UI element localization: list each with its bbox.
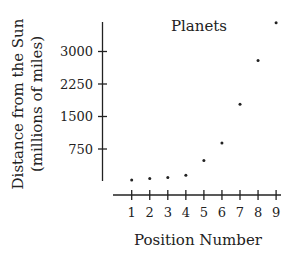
- y-ticks: 750150022503000: [60, 44, 107, 157]
- x-axis-label: Position Number: [134, 231, 263, 249]
- data-point: [275, 21, 278, 24]
- y-axis-label-line1: Distance from the Sun: [9, 18, 27, 189]
- x-tick-label: 7: [236, 205, 244, 220]
- y-tick-label: 750: [68, 142, 93, 157]
- data-point: [166, 176, 169, 179]
- data-point: [202, 159, 205, 162]
- data-point: [239, 103, 242, 106]
- chart-title: Planets: [171, 17, 227, 35]
- x-tick-label: 3: [164, 205, 172, 220]
- scatter-chart: Planets Distance from the Sun (millions …: [0, 0, 295, 254]
- x-tick-label: 5: [200, 205, 208, 220]
- data-point: [220, 142, 223, 145]
- y-axis-label: Distance from the Sun (millions of miles…: [9, 18, 46, 189]
- data-point: [148, 177, 151, 180]
- x-tick-label: 8: [254, 205, 262, 220]
- data-point: [257, 59, 260, 62]
- y-axis-label-line2: (millions of miles): [28, 36, 46, 172]
- data-points: [130, 21, 277, 181]
- y-tick-label: 1500: [60, 109, 93, 124]
- x-tick-label: 9: [272, 205, 280, 220]
- x-tick-label: 2: [146, 205, 154, 220]
- data-point: [184, 174, 187, 177]
- x-tick-label: 4: [182, 205, 190, 220]
- y-tick-label: 3000: [60, 44, 93, 59]
- x-tick-label: 6: [218, 205, 226, 220]
- data-point: [130, 178, 133, 181]
- y-tick-label: 2250: [60, 77, 93, 92]
- x-tick-label: 1: [128, 205, 136, 220]
